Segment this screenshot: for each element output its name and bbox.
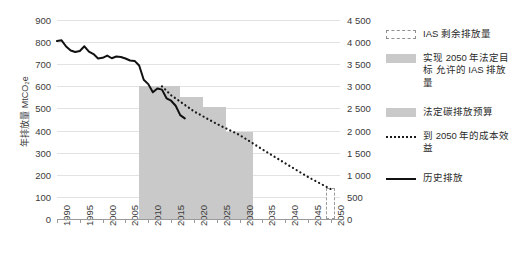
y-axis-left-tick-label: 100	[35, 191, 51, 202]
x-axis-tick-label: 2005	[129, 205, 140, 226]
legend-item: IAS 剩余排放量	[386, 28, 511, 41]
legend-item-label: 法定碳排放预算	[423, 106, 493, 119]
legend-swatch-filled-box-icon	[386, 54, 416, 63]
y-axis-right-tick-label: 2 500	[347, 103, 371, 114]
legend-swatch-filled-box-icon	[386, 108, 416, 117]
y-axis-right-tick-label: 3 000	[347, 81, 371, 92]
chart-figure: 年排放量 MtCO₂e 0100200300400500600700800900…	[0, 0, 511, 262]
y-axis-right-tick-label: 4 500	[347, 15, 371, 26]
y-axis-right-tick-label: 1 000	[347, 169, 371, 180]
x-axis-line	[57, 219, 340, 220]
legend-swatch-solid-line-icon	[386, 174, 416, 183]
x-axis-tick-label: 2025	[221, 205, 232, 226]
y-axis-right-tick-label: 0	[347, 214, 352, 225]
y-axis-left-tick-label: 300	[35, 147, 51, 158]
x-axis-tick-label: 2040	[289, 205, 300, 226]
legend-item: 法定碳排放预算	[386, 106, 511, 119]
y-axis-left-tick-label: 600	[35, 81, 51, 92]
legend-item-label: IAS 剩余排放量	[423, 28, 491, 41]
legend-item: 到 2050 年的成本效益	[386, 130, 511, 155]
series-line	[162, 86, 331, 189]
x-axis-tick-label: 2030	[244, 205, 255, 226]
y-axis-left-tick-label: 900	[35, 15, 51, 26]
x-axis-tick-label: 2010	[152, 205, 163, 226]
x-axis-tick-label: 2020	[198, 205, 209, 226]
x-axis-tick-label: 1995	[84, 205, 95, 226]
y-axis-left-tick-label: 700	[35, 59, 51, 70]
legend-swatch-dashed-box-icon	[386, 30, 416, 39]
legend-item-label: 到 2050 年的成本效益	[423, 130, 511, 155]
x-axis-tick-label: 2050	[335, 205, 346, 226]
x-axis-tick-label: 1990	[61, 205, 72, 226]
plot-area: 0100200300400500600700800900 05001 0001 …	[57, 20, 340, 219]
y-axis-left-tick-label: 200	[35, 169, 51, 180]
x-axis-tick-label: 2045	[312, 205, 323, 226]
y-axis-title: 年排放量 MtCO₂e	[18, 42, 31, 182]
legend-item: 实现 2050 年法定目标 允许的 IAS 排放量	[386, 52, 511, 90]
legend-item: 历史排放	[386, 172, 511, 185]
series-line	[57, 40, 185, 118]
legend-item-label: 实现 2050 年法定目标 允许的 IAS 排放量	[423, 52, 511, 90]
x-axis-tick-label: 2035	[266, 205, 277, 226]
y-axis-left-tick-label: 500	[35, 103, 51, 114]
legend-swatch-dotted-line-icon	[386, 132, 416, 141]
y-axis-right-tick-label: 3 500	[347, 59, 371, 70]
y-axis-right-tick-label: 500	[347, 191, 363, 202]
legend: IAS 剩余排放量实现 2050 年法定目标 允许的 IAS 排放量法定碳排放预…	[386, 28, 511, 195]
y-axis-right-tick-label: 2 000	[347, 125, 371, 136]
y-axis-left-tick-label: 400	[35, 125, 51, 136]
series-layer	[57, 20, 340, 219]
y-axis-right-tick-label: 1 500	[347, 147, 371, 158]
legend-item-label: 历史排放	[423, 172, 463, 185]
x-axis-tick-label: 2000	[107, 205, 118, 226]
y-axis-right-tick-label: 4 000	[347, 37, 371, 48]
y-axis-left-tick-label: 0	[46, 214, 51, 225]
x-axis-tick-label: 2015	[175, 205, 186, 226]
y-axis-left-tick-label: 800	[35, 37, 51, 48]
